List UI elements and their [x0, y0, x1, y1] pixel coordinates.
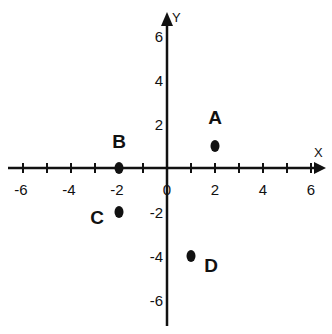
x-tick-label: -4: [62, 181, 75, 198]
x-axis-label: X: [314, 145, 323, 160]
x-tick-label: -6: [14, 181, 27, 198]
y-tick-label: -4: [150, 248, 163, 265]
y-tick-label: 6: [155, 28, 163, 45]
y-tick-label: 2: [155, 116, 163, 133]
point-label: B: [112, 131, 126, 152]
x-tick-label: 6: [307, 181, 315, 198]
point-marker: [115, 206, 124, 218]
point-c: C: [90, 206, 123, 228]
x-tick-label: 0: [163, 181, 171, 198]
y-axis-label: Y: [172, 10, 181, 25]
coordinate-plane: -6-4-20246 642-2-4-6 ABCD X Y: [0, 0, 332, 334]
point-a: A: [208, 107, 222, 152]
point-d: D: [187, 250, 218, 276]
axes: [8, 12, 326, 326]
x-tick-label: -2: [110, 181, 123, 198]
point-marker: [187, 250, 196, 262]
y-tick-label: -2: [150, 204, 163, 221]
point-marker: [211, 140, 220, 152]
point-label: C: [90, 207, 104, 228]
y-tick-label: 4: [155, 72, 163, 89]
x-tick-label: 2: [211, 181, 219, 198]
x-tick-label: 4: [259, 181, 267, 198]
x-tick-labels: -6-4-20246: [14, 181, 315, 198]
x-axis-arrow-icon: [314, 162, 326, 174]
point-label: D: [204, 255, 218, 276]
y-tick-label: -6: [150, 292, 163, 309]
point-marker: [115, 162, 124, 174]
point-label: A: [208, 107, 222, 128]
